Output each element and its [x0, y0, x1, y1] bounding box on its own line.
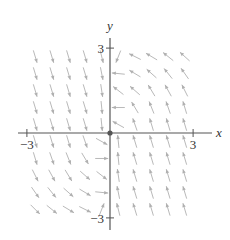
arrowhead [166, 186, 169, 190]
arrowhead [35, 193, 39, 197]
arrowhead [132, 152, 135, 156]
vector-arrow [31, 205, 40, 214]
vector-arrow [63, 206, 74, 213]
vector-arrow [182, 101, 186, 113]
x-tick-label: 3 [190, 137, 197, 152]
arrowhead [84, 143, 87, 147]
arrowhead [34, 126, 37, 130]
arrowhead [67, 109, 70, 113]
vector-arrow [149, 169, 153, 181]
arrowhead [149, 152, 152, 156]
arrowhead [182, 135, 185, 139]
vector-arrow [67, 84, 71, 96]
vector-arrow [83, 135, 88, 147]
vector-arrow [113, 121, 124, 127]
vector-arrow [95, 157, 108, 161]
vector-arrow [64, 188, 74, 197]
vector-arrow [116, 51, 121, 63]
vector-arrow [165, 85, 171, 96]
arrowhead [84, 75, 87, 79]
vector-arrow [182, 203, 186, 215]
vector-arrow [97, 171, 107, 179]
vector-arrow [50, 50, 54, 62]
vector-arrow [116, 186, 120, 199]
arrowhead [51, 75, 54, 79]
arrowhead [84, 58, 87, 62]
vector-arrow [149, 203, 153, 215]
arrowhead [166, 135, 169, 139]
vector-arrow [132, 102, 139, 113]
x-axis-label: x [215, 125, 222, 140]
vector-arrow [100, 84, 104, 97]
vector-arrow [132, 203, 136, 215]
vector-arrow [182, 186, 186, 198]
vector-arrow [181, 68, 188, 79]
x-tick-label: −3 [20, 137, 34, 152]
arrowhead [166, 152, 169, 156]
vector-arrow [116, 152, 120, 165]
arrowhead [34, 143, 37, 147]
vector-arrow [79, 189, 90, 196]
vector-field-plot: −333−3 x y [0, 0, 230, 240]
vector-arrow [132, 118, 137, 130]
vector-arrow [100, 101, 104, 114]
arrowhead [182, 186, 185, 190]
vector-arrow [32, 170, 38, 182]
vector-arrow [130, 86, 140, 95]
vector-arrow [129, 70, 140, 77]
vector-arrow [180, 52, 190, 61]
vector-arrow [113, 87, 123, 95]
arrowhead [116, 186, 120, 190]
vector-arrow [149, 118, 153, 130]
arrowhead [34, 160, 37, 164]
vector-arrow [33, 135, 37, 147]
vector-arrow [33, 50, 37, 62]
arrowhead [132, 118, 135, 122]
arrowhead [51, 109, 54, 113]
vector-arrow [166, 169, 170, 181]
vector-arrow [67, 67, 71, 79]
vector-arrow [166, 152, 170, 164]
vector-arrow [147, 69, 157, 78]
vector-arrow [112, 106, 125, 110]
vector-arrow [83, 67, 87, 79]
y-tick-label: −3 [90, 211, 104, 226]
vector-arrow [166, 186, 170, 198]
vector-arrow [132, 186, 136, 198]
vector-arrow [83, 118, 87, 130]
arrowhead [104, 157, 108, 161]
vector-arrow [112, 72, 125, 76]
arrowhead [149, 135, 152, 139]
vector-arrow [31, 187, 38, 198]
arrowhead [51, 58, 54, 62]
vector-arrow [132, 152, 136, 164]
vector-arrow [65, 170, 72, 181]
vector-arrow [164, 68, 172, 78]
arrowhead [51, 126, 54, 130]
vector-arrow [95, 191, 108, 195]
vector-arrow [33, 118, 37, 130]
arrowhead [84, 109, 87, 113]
arrowhead [182, 101, 185, 105]
vector-arrow [182, 169, 186, 181]
arrowhead [166, 169, 169, 173]
arrowhead [182, 152, 185, 156]
vector-arrow [166, 203, 170, 215]
vector-arrow [67, 50, 71, 62]
arrowhead [84, 92, 87, 96]
arrowhead [34, 92, 37, 96]
arrowhead [112, 106, 116, 110]
arrowhead [51, 160, 54, 164]
vector-arrow [50, 101, 54, 113]
arrowhead [67, 92, 70, 96]
vector-arrow [182, 118, 186, 130]
arrowhead [181, 68, 185, 72]
vector-arrow [33, 101, 37, 113]
arrowhead [182, 118, 185, 122]
vector-arrow [50, 67, 54, 79]
arrowhead [51, 92, 54, 96]
vector-arrow [166, 135, 170, 147]
vector-arrow [146, 53, 157, 60]
vector-arrow [116, 203, 120, 216]
vector-arrow [100, 67, 104, 80]
